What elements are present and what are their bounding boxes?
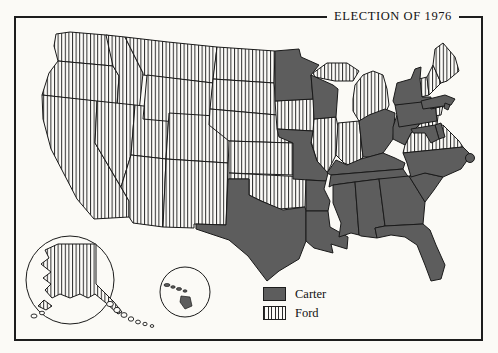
state-nd [213, 47, 275, 83]
contiguous-us [42, 32, 475, 281]
state-ms [333, 182, 359, 237]
election-map-page: ELECTION OF 1976 [0, 0, 498, 353]
legend-row-carter: Carter [263, 287, 326, 300]
state-nc [403, 147, 471, 177]
legend-carter-label: Carter [295, 288, 326, 300]
hawaii-inset [160, 267, 210, 317]
legend-ford-swatch [263, 306, 286, 320]
state-wi [311, 75, 338, 119]
state-fl [375, 224, 445, 281]
us-election-map [0, 0, 498, 353]
alaska-inset [26, 236, 154, 327]
legend: Carter Ford [263, 287, 326, 325]
legend-carter-swatch [263, 287, 286, 301]
legend-ford-label: Ford [295, 307, 319, 319]
state-nm [163, 159, 228, 228]
dc-dot [466, 154, 475, 163]
legend-row-ford: Ford [263, 306, 326, 319]
state-hi [164, 284, 192, 310]
state-ar [306, 180, 330, 211]
state-ks [229, 141, 293, 175]
map-title: ELECTION OF 1976 [327, 8, 459, 24]
